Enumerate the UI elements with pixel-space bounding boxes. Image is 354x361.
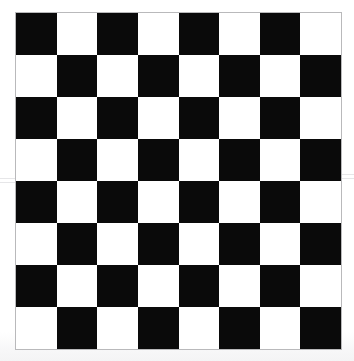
checkerboard-cell-light	[179, 307, 220, 349]
checkerboard-cell-light	[179, 223, 220, 265]
checkerboard-cell-dark	[97, 97, 138, 139]
checkerboard-cell-light	[138, 97, 179, 139]
checkerboard-cell-light	[300, 97, 341, 139]
checkerboard-cell-light	[16, 307, 57, 349]
checkerboard	[15, 12, 342, 350]
checkerboard-cell-dark	[219, 55, 260, 97]
checkerboard-cell-light	[16, 55, 57, 97]
checkerboard-cell-dark	[300, 55, 341, 97]
checkerboard-cell-dark	[179, 13, 220, 55]
checkerboard-cell-dark	[300, 307, 341, 349]
checkerboard-cell-light	[97, 223, 138, 265]
checkerboard-cell-dark	[260, 265, 301, 307]
checkerboard-cell-dark	[138, 55, 179, 97]
checkerboard-cell-light	[138, 13, 179, 55]
checkerboard-cell-dark	[300, 223, 341, 265]
checkerboard-cell-dark	[16, 13, 57, 55]
checkerboard-cell-light	[219, 13, 260, 55]
checkerboard-cell-light	[219, 181, 260, 223]
checkerboard-cell-light	[300, 265, 341, 307]
checkerboard-cell-light	[57, 13, 98, 55]
checkerboard-cell-dark	[179, 97, 220, 139]
checkerboard-cell-light	[138, 181, 179, 223]
checkerboard-cell-dark	[16, 181, 57, 223]
checkerboard-cell-light	[97, 139, 138, 181]
checkerboard-cell-dark	[57, 55, 98, 97]
checkerboard-cell-light	[57, 181, 98, 223]
checkerboard-cell-dark	[57, 139, 98, 181]
checkerboard-cell-light	[138, 265, 179, 307]
checkerboard-cell-light	[97, 307, 138, 349]
checkerboard-cell-dark	[219, 307, 260, 349]
checkerboard-cell-light	[97, 55, 138, 97]
checkerboard-cell-light	[219, 265, 260, 307]
scan-seam-left-tail	[0, 182, 16, 183]
checkerboard-cell-dark	[260, 13, 301, 55]
checkerboard-cell-dark	[138, 307, 179, 349]
checkerboard-cell-dark	[16, 265, 57, 307]
checkerboard-cell-dark	[179, 181, 220, 223]
checkerboard-cell-light	[179, 55, 220, 97]
checkerboard-cell-dark	[219, 139, 260, 181]
checkerboard-cell-light	[16, 139, 57, 181]
checkerboard-cell-light	[260, 223, 301, 265]
checkerboard-cell-dark	[57, 223, 98, 265]
checkerboard-cell-light	[179, 139, 220, 181]
checkerboard-cell-dark	[97, 265, 138, 307]
scan-seam-right-tail	[341, 174, 354, 175]
checkerboard-cell-light	[57, 97, 98, 139]
checkerboard-cell-dark	[260, 97, 301, 139]
checkerboard-cell-light	[57, 265, 98, 307]
checkerboard-cell-light	[300, 181, 341, 223]
checkerboard-cell-light	[219, 97, 260, 139]
checkerboard-cell-dark	[138, 223, 179, 265]
checkerboard-cell-dark	[57, 307, 98, 349]
checkerboard-cell-dark	[97, 13, 138, 55]
checkerboard-cell-light	[16, 223, 57, 265]
checkerboard-cell-light	[260, 55, 301, 97]
checkerboard-cell-light	[300, 13, 341, 55]
checkerboard-cell-dark	[97, 181, 138, 223]
checkerboard-cell-dark	[219, 223, 260, 265]
checkerboard-cell-dark	[16, 97, 57, 139]
checkerboard-cell-dark	[179, 265, 220, 307]
checkerboard-cell-dark	[300, 139, 341, 181]
scanned-page	[0, 0, 354, 361]
checkerboard-cell-dark	[260, 181, 301, 223]
checkerboard-cell-dark	[138, 139, 179, 181]
checkerboard-cell-light	[260, 307, 301, 349]
checkerboard-cell-light	[260, 139, 301, 181]
